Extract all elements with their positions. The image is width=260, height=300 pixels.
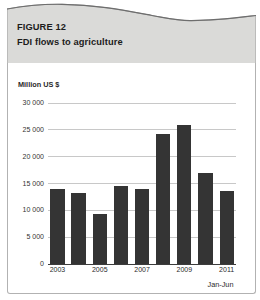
x-tick-label-2005: 2005 xyxy=(85,266,115,273)
plot-area xyxy=(48,103,236,265)
bar-2003 xyxy=(50,189,64,264)
x-axis-labels: 20032005200720092011 xyxy=(48,266,236,276)
y-tick-label-0: 0 xyxy=(8,259,44,268)
y-axis-labels: 30 00025 00020 00015 00010 0005 0000 xyxy=(8,103,44,264)
x-tick-label-2009: 2009 xyxy=(169,266,199,273)
period-note: Jan-Jun xyxy=(208,280,234,289)
y-axis-unit-label: Million US $ xyxy=(18,80,59,89)
figure-header: FIGURE 12 FDI flows to agriculture xyxy=(17,20,123,49)
bar-2005 xyxy=(93,214,107,264)
bar-2004 xyxy=(71,193,85,263)
y-tick-label-25000: 25 000 xyxy=(8,125,44,134)
bar-2009 xyxy=(177,125,191,263)
y-tick-label-20000: 20 000 xyxy=(8,152,44,161)
bar-2006 xyxy=(114,186,128,264)
gridline-20000 xyxy=(48,156,236,157)
figure-title: FDI flows to agriculture xyxy=(17,35,123,50)
gridline-30000 xyxy=(48,103,236,104)
chart-panel: Million US $ 30 00025 00020 00015 00010 … xyxy=(7,63,256,294)
y-tick-label-15000: 15 000 xyxy=(8,179,44,188)
figure-label: FIGURE 12 xyxy=(17,20,123,35)
gridline-25000 xyxy=(48,129,236,130)
figure-card: FIGURE 12 FDI flows to agriculture Milli… xyxy=(7,0,256,294)
x-tick-label-2003: 2003 xyxy=(42,266,72,273)
x-tick-label-2011: 2011 xyxy=(212,266,242,273)
y-tick-label-10000: 10 000 xyxy=(8,205,44,214)
y-tick-label-30000: 30 000 xyxy=(8,98,44,107)
bar-2007 xyxy=(135,189,149,263)
bar-2011 xyxy=(220,191,234,264)
y-tick-label-5000: 5 000 xyxy=(8,232,44,241)
x-tick-label-2007: 2007 xyxy=(127,266,157,273)
figure-page: FIGURE 12 FDI flows to agriculture Milli… xyxy=(0,0,260,300)
bar-2008 xyxy=(156,134,170,264)
bar-2010 xyxy=(198,173,212,264)
